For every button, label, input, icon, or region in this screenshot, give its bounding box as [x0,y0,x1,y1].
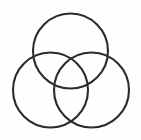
top-circle [33,14,108,89]
bottom-right-circle [54,53,129,128]
bottom-left-circle [13,53,88,128]
three-circle-venn-diagram [0,0,141,140]
figure-canvas [0,0,141,140]
